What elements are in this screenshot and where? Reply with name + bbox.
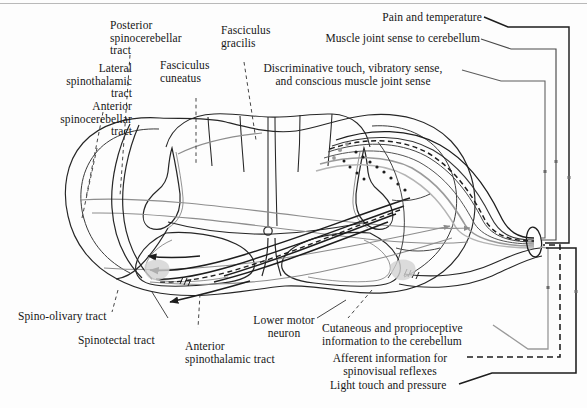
- label-posterior-spinocerebellar-tract: Posterior spinocerebellar tract: [110, 19, 220, 57]
- label-discriminative-touch: Discriminative touch, vibratory sense, a…: [244, 62, 462, 87]
- label-muscle-joint-sense-to-cerebellum: Muscle joint sense to cerebellum: [230, 32, 480, 45]
- bracket-light-touch: [459, 248, 576, 384]
- dorsal-root-fibers-icon: [316, 132, 534, 248]
- label-afferent-information: Afferent information for spinovisual ref…: [312, 352, 468, 377]
- label-lateral-spinothalamic-tract: Lateral spinothalamic tract: [4, 62, 132, 100]
- label-cutaneous-and-proprioceptive: Cutaneous and proprioceptive information…: [322, 322, 502, 347]
- posterior-columns-icon: [166, 114, 370, 226]
- label-light-touch-and-pressure: Light touch and pressure: [330, 379, 490, 392]
- label-anterior-spinothalamic-tract: Anterior spinothalamic tract: [185, 340, 315, 365]
- label-pain-and-temperature: Pain and temperature: [280, 11, 482, 24]
- label-anterior-spinocerebellar-tract: Anterior spinocerebellar tract: [0, 100, 132, 138]
- label-spino-olivary-tract: Spino-olivary tract: [18, 310, 158, 323]
- label-lower-motor-neuron: Lower motor neuron: [232, 314, 336, 339]
